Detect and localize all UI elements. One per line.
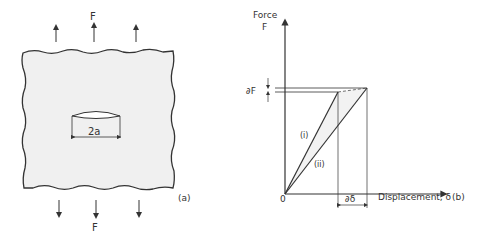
- d-delta-label: ∂δ: [345, 194, 356, 204]
- line-ii-label: (ii): [314, 160, 325, 169]
- y-axis-label-1: Force: [253, 10, 278, 20]
- line-i: [285, 92, 338, 194]
- force-top-label: F: [90, 11, 96, 22]
- crack-length-label: 2a: [88, 126, 101, 137]
- panel-a: F 2a F (a): [22, 11, 191, 233]
- bottom-force-arrows: [59, 200, 139, 216]
- fracture-diagram: F 2a F (a) Force F ∂F: [0, 0, 480, 237]
- panel-b-label: (b): [452, 192, 465, 202]
- y-axis-label-2: F: [262, 22, 267, 32]
- line-i-label: (i): [300, 131, 308, 140]
- top-force-arrows: [56, 25, 136, 42]
- plate: [22, 49, 175, 189]
- line-ii: [285, 88, 367, 194]
- force-bottom-label: F: [92, 222, 98, 233]
- x-axis-label: Displacement, δ: [378, 192, 452, 202]
- panel-b: Force F ∂F (i) (ii) ∂δ 0 Displacement, δ…: [246, 10, 465, 208]
- origin-label: 0: [280, 194, 286, 204]
- dF-label: ∂F: [246, 86, 256, 96]
- panel-a-label: (a): [178, 193, 191, 203]
